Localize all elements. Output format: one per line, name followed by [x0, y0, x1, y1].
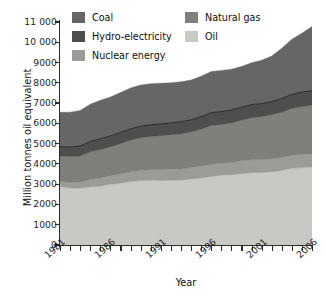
legend-label-nuclear-energy: Nuclear energy [92, 50, 165, 61]
x-tick-mark [191, 246, 192, 251]
y-tick-label: 5000 [33, 138, 57, 149]
y-tick-label: 8000 [33, 77, 57, 88]
y-tick-label: 2000 [33, 198, 57, 209]
legend-item-hydro-electricity: Hydro-electricity [72, 31, 172, 42]
x-tick-mark [282, 246, 283, 251]
x-tick-mark [292, 246, 293, 251]
y-tick-label: 4000 [33, 158, 57, 169]
x-tick-mark [141, 246, 142, 251]
y-tick-label: 6000 [33, 117, 57, 128]
y-tick-label: 7000 [33, 97, 57, 108]
chart-page: 010002000300040005000600070008000900010 … [0, 0, 325, 296]
y-axis-line [59, 20, 60, 247]
y-axis-title: Million tonnes oil equivalent [22, 48, 33, 228]
legend-label-natural-gas: Natural gas [205, 12, 260, 23]
x-tick-mark [80, 246, 81, 251]
legend-swatch-natural-gas [185, 12, 198, 23]
y-tick-label: 10 000 [24, 36, 57, 47]
x-tick-mark [231, 246, 232, 251]
legend-item-coal: Coal [72, 12, 113, 23]
legend-item-nuclear-energy: Nuclear energy [72, 50, 165, 61]
legend-swatch-oil [185, 31, 198, 42]
x-tick-mark [70, 246, 71, 251]
y-tick-label: 3000 [33, 178, 57, 189]
y-tick-label: 1000 [33, 219, 57, 230]
x-tick-mark [171, 246, 172, 251]
x-tick-mark [181, 246, 182, 251]
legend-label-coal: Coal [92, 12, 113, 23]
x-tick-mark [241, 246, 242, 251]
legend-label-hydro-electricity: Hydro-electricity [92, 31, 172, 42]
legend-item-oil: Oil [185, 31, 218, 42]
x-tick-mark [221, 246, 222, 251]
y-tick-label: 9000 [33, 57, 57, 68]
y-tick-label: 11 000 [24, 16, 57, 27]
legend-label-oil: Oil [205, 31, 218, 42]
legend-swatch-coal [72, 12, 85, 23]
x-tick-mark [272, 246, 273, 251]
legend-swatch-hydro-electricity [72, 31, 85, 42]
x-axis-title: Year [60, 277, 312, 288]
x-tick-label: 1981 [42, 236, 67, 260]
x-tick-mark [90, 246, 91, 251]
legend-item-natural-gas: Natural gas [185, 12, 260, 23]
chart-legend: Coal Hydro-electricity Nuclear energy Na… [72, 12, 312, 70]
x-tick-mark [131, 246, 132, 251]
legend-swatch-nuclear-energy [72, 50, 85, 61]
x-tick-mark [120, 246, 121, 251]
